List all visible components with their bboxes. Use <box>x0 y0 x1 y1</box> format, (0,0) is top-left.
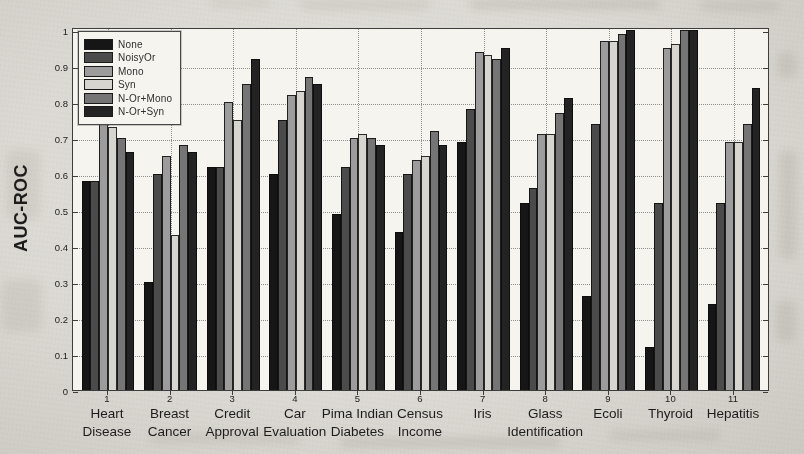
legend-label-mono: Mono <box>118 66 144 77</box>
y-tick-label: 0 <box>42 386 68 397</box>
x-tick-number-pima-indian-diabetes: 5 <box>355 393 360 404</box>
bar-heart-disease-syn <box>108 127 117 390</box>
bar-credit-approval-n-or-mono <box>242 84 251 390</box>
x-tick-number-thyroid: 10 <box>665 393 676 404</box>
y-tick-mark <box>763 356 768 357</box>
x-tick-number-iris: 7 <box>480 393 485 404</box>
bar-hepatitis-mono <box>725 142 734 390</box>
bar-thyroid-syn <box>671 44 680 390</box>
bar-car-evaluation-syn <box>296 91 305 390</box>
x-category-label-car-evaluation: Car Evaluation <box>263 405 326 440</box>
bar-pima-indian-diabetes-n-or-syn <box>376 145 385 390</box>
y-tick-mark <box>763 320 768 321</box>
bar-ecoli-none <box>582 296 591 390</box>
bar-car-evaluation-mono <box>287 95 296 390</box>
bar-heart-disease-n-or-syn <box>126 152 135 390</box>
x-tick-number-breast-cancer: 2 <box>167 393 172 404</box>
x-category-label-breast-cancer: Breast Cancer <box>148 405 192 440</box>
plot-area: NoneNoisyOrMonoSynN-Or+MonoN-Or+Syn <box>72 28 769 391</box>
legend-swatch-n-or-syn <box>84 106 113 117</box>
y-tick-label: 0.2 <box>42 314 68 325</box>
bar-glass-identification-none <box>520 203 529 390</box>
bar-iris-n-or-mono <box>492 59 501 390</box>
bar-breast-cancer-syn <box>171 235 180 390</box>
bar-heart-disease-none <box>82 181 91 390</box>
y-tick-label: 1 <box>42 26 68 37</box>
legend-item-noisyor: NoisyOr <box>84 52 172 63</box>
x-category-label-ecoli: Ecoli <box>593 405 622 423</box>
y-tick-mark <box>73 392 78 393</box>
bar-breast-cancer-n-or-mono <box>179 145 188 390</box>
bar-car-evaluation-n-or-syn <box>313 84 322 390</box>
bar-car-evaluation-none <box>269 174 278 390</box>
legend-label-none: None <box>118 39 143 50</box>
y-axis-title: AUC-ROC <box>11 164 32 252</box>
bar-iris-mono <box>475 52 484 390</box>
bar-breast-cancer-n-or-syn <box>188 152 197 390</box>
y-tick-mark <box>73 356 78 357</box>
y-tick-mark <box>73 248 78 249</box>
bar-census-income-n-or-syn <box>439 145 448 390</box>
legend-swatch-none <box>84 39 113 50</box>
bar-glass-identification-n-or-mono <box>555 113 564 390</box>
bar-thyroid-none <box>645 347 654 390</box>
x-category-label-heart-disease: Heart Disease <box>83 405 132 440</box>
bar-ecoli-mono <box>600 41 609 390</box>
bar-pima-indian-diabetes-mono <box>350 138 359 390</box>
bar-credit-approval-syn <box>233 120 242 390</box>
x-tick-number-heart-disease: 1 <box>104 393 109 404</box>
bar-pima-indian-diabetes-noisyor <box>341 167 350 390</box>
x-category-label-glass-identification: Glass Identification <box>507 405 583 440</box>
y-tick-label: 0.9 <box>42 62 68 73</box>
legend-item-mono: Mono <box>84 66 172 77</box>
legend-swatch-mono <box>84 66 113 77</box>
bar-hepatitis-none <box>708 304 717 390</box>
y-tick-mark <box>763 68 768 69</box>
bar-breast-cancer-none <box>144 282 153 390</box>
y-tick-mark <box>73 212 78 213</box>
y-tick-mark <box>73 320 78 321</box>
legend-swatch-syn <box>84 79 113 90</box>
y-tick-label: 0.5 <box>42 206 68 217</box>
scanned-page-body: { "chart_data": { "type": "bar", "title"… <box>0 0 804 454</box>
y-tick-mark <box>763 176 768 177</box>
bar-hepatitis-syn <box>734 142 743 390</box>
x-category-label-hepatitis: Hepatitis <box>707 405 760 423</box>
bar-hepatitis-n-or-syn <box>752 88 761 390</box>
bar-credit-approval-n-or-syn <box>251 59 260 390</box>
bar-iris-syn <box>484 55 493 390</box>
legend-label-n-or-syn: N-Or+Syn <box>118 106 164 117</box>
bar-hepatitis-n-or-mono <box>743 124 752 390</box>
y-tick-mark <box>763 392 768 393</box>
bar-credit-approval-noisyor <box>216 167 225 390</box>
bar-thyroid-noisyor <box>654 203 663 390</box>
bar-car-evaluation-n-or-mono <box>305 77 314 390</box>
y-tick-mark <box>73 284 78 285</box>
bar-glass-identification-mono <box>537 134 546 390</box>
x-category-label-census-income: Census Income <box>397 405 443 440</box>
x-category-label-credit-approval: Credit Approval <box>206 405 259 440</box>
bar-census-income-syn <box>421 156 430 390</box>
x-tick-number-car-evaluation: 4 <box>292 393 297 404</box>
bar-pima-indian-diabetes-none <box>332 214 341 390</box>
x-category-label-iris: Iris <box>474 405 492 423</box>
auc-roc-grouped-bar-chart: AUC-ROC NoneNoisyOrMonoSynN-Or+MonoN-Or+… <box>0 0 804 454</box>
x-tick-number-ecoli: 9 <box>605 393 610 404</box>
y-tick-label: 0.3 <box>42 278 68 289</box>
y-tick-mark <box>763 248 768 249</box>
bar-thyroid-n-or-syn <box>689 30 698 390</box>
y-tick-mark <box>763 104 768 105</box>
x-tick-number-census-income: 6 <box>417 393 422 404</box>
y-tick-mark <box>763 140 768 141</box>
bar-iris-noisyor <box>466 109 475 390</box>
scanned-paper: AUC-ROC NoneNoisyOrMonoSynN-Or+MonoN-Or+… <box>0 0 804 454</box>
y-tick-mark <box>763 284 768 285</box>
y-tick-mark <box>763 212 768 213</box>
legend-label-n-or-mono: N-Or+Mono <box>118 93 172 104</box>
bar-ecoli-noisyor <box>591 124 600 390</box>
legend-item-syn: Syn <box>84 79 172 90</box>
bar-heart-disease-n-or-mono <box>117 138 126 390</box>
y-tick-label: 0.8 <box>42 98 68 109</box>
bar-census-income-none <box>395 232 404 390</box>
bar-pima-indian-diabetes-n-or-mono <box>367 138 376 390</box>
